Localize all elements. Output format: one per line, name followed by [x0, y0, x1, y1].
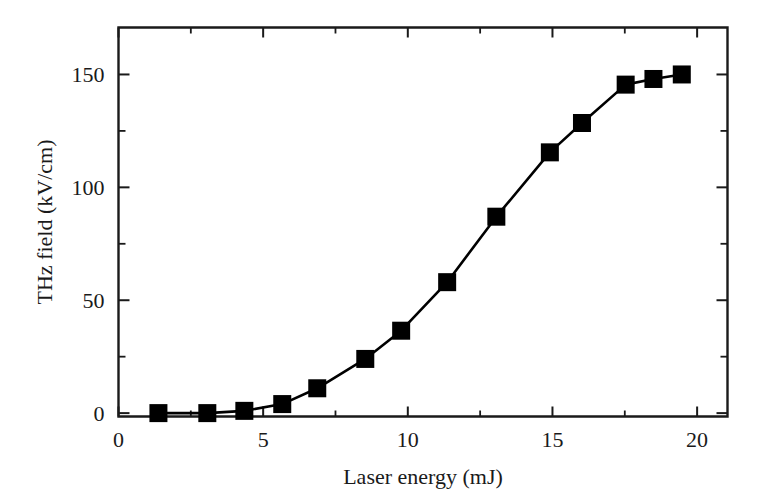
data-series-markers: [149, 65, 690, 422]
data-series-line: [158, 74, 681, 413]
x-tick-label: 10: [397, 427, 419, 452]
data-point-marker: [644, 70, 662, 88]
thz-field-chart-figure: 05101520 050100150 Laser energy (mJ) THz…: [0, 0, 760, 499]
data-point-marker: [487, 208, 505, 226]
data-series-group: [149, 65, 690, 422]
y-axis-major-ticks: [119, 74, 728, 413]
x-axis-minor-ticks: [191, 28, 625, 417]
data-point-marker: [273, 395, 291, 413]
axis-frame: [119, 28, 728, 417]
x-tick-label: 15: [541, 427, 563, 452]
y-axis-minor-ticks: [119, 131, 728, 357]
x-tick-label: 5: [258, 427, 269, 452]
x-axis-title: Laser energy (mJ): [343, 464, 503, 489]
y-tick-label: 100: [72, 175, 105, 200]
data-point-marker: [308, 379, 326, 397]
data-point-marker: [673, 65, 691, 83]
data-point-marker: [617, 76, 635, 94]
data-point-marker: [541, 143, 559, 161]
data-point-marker: [235, 402, 253, 420]
data-point-marker: [573, 114, 591, 132]
y-tick-label: 50: [83, 288, 105, 313]
y-tick-label: 150: [72, 62, 105, 87]
plot-frame-border: [119, 28, 728, 417]
chart-canvas: 05101520 050100150 Laser energy (mJ) THz…: [0, 0, 760, 499]
x-tick-label: 0: [113, 427, 124, 452]
y-axis-tick-labels: 050100150: [72, 62, 105, 426]
x-tick-label: 20: [686, 427, 708, 452]
x-axis-major-ticks: [119, 28, 698, 417]
x-axis-tick-labels: 05101520: [113, 427, 708, 452]
data-point-marker: [149, 404, 167, 422]
y-axis-title: THz field (kV/cm): [32, 140, 57, 305]
y-tick-label: 0: [94, 401, 105, 426]
data-point-marker: [392, 322, 410, 340]
data-point-marker: [198, 404, 216, 422]
data-point-marker: [438, 273, 456, 291]
data-point-marker: [356, 350, 374, 368]
